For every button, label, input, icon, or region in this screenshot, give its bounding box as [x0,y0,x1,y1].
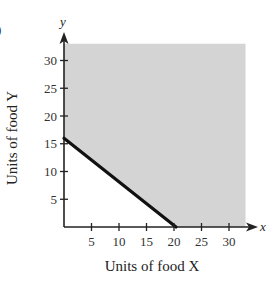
x-tick-label: 5 [88,234,95,249]
corner-mark: ) [0,22,1,37]
y-axis-variable: y [58,14,66,29]
y-tick-label: 5 [51,192,58,207]
x-tick-label: 15 [140,234,153,249]
x-axis-variable: x [259,219,266,234]
y-tick-label: 25 [44,81,57,96]
shaded-region [64,44,246,227]
y-tick-label: 30 [44,53,57,68]
x-tick-label: 10 [113,234,126,249]
x-axis-title: Units of food X [105,258,200,274]
y-tick-label: 15 [44,136,57,151]
y-tick-label: 20 [44,109,57,124]
x-tick-label: 20 [168,234,181,249]
x-tick-label: 25 [195,234,208,249]
feasible-region-chart: 51015202530 51015202530 ) y x Units of f… [0,0,268,295]
y-axis-title: Units of food Y [4,91,20,185]
x-tick-label: 30 [223,234,236,249]
y-tick-label: 10 [44,164,57,179]
shaded-polygon [64,44,246,227]
